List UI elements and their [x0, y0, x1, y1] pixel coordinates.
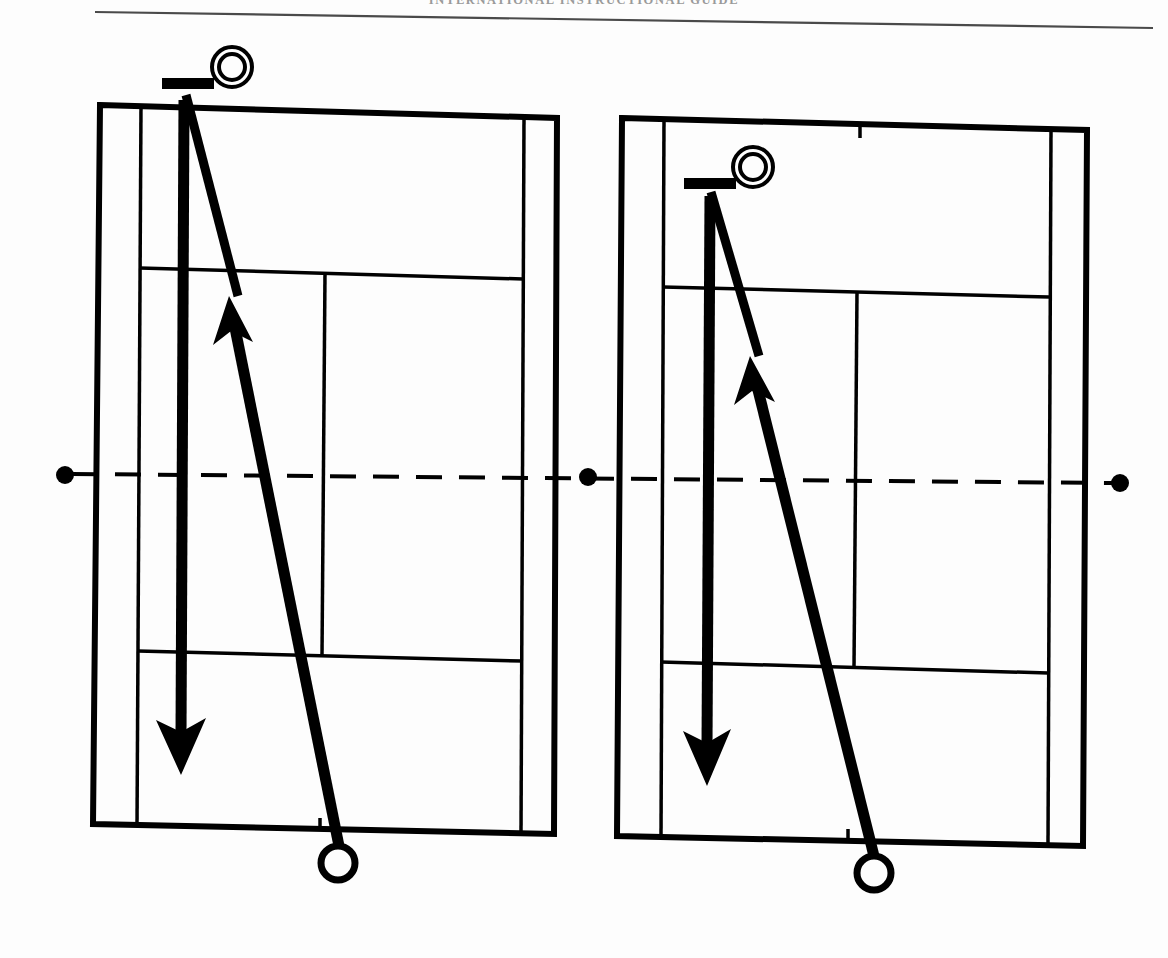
net-line-group	[56, 466, 1129, 492]
left-court-served-ball-path	[186, 95, 238, 296]
header-rule-group	[95, 12, 1153, 28]
left-court-far-service-line	[140, 268, 523, 279]
left-court-ball-marker-icon	[321, 846, 355, 880]
right-court-singles-sideline-right	[1048, 130, 1051, 845]
left-court-movement-arrow	[156, 100, 206, 775]
header-rule	[95, 12, 1153, 28]
left-court-player-marker	[162, 47, 252, 89]
left-court-center-service-line	[322, 273, 325, 656]
right-court-center-service-line	[854, 292, 857, 668]
left-court-singles-sideline-left	[137, 106, 141, 826]
right-court-served-ball-path	[711, 192, 759, 356]
left-court-near-service-line	[138, 651, 522, 661]
player-head-inner-icon	[740, 154, 766, 180]
player-head-inner-icon	[219, 54, 245, 80]
net-dot-center	[579, 468, 597, 486]
right-court-ball-marker-icon	[857, 856, 891, 890]
left-court-panel	[93, 47, 557, 880]
figure-page: INTERNATIONAL INSTRUCTIONAL GUIDE	[0, 0, 1168, 958]
net-dot-right	[1111, 474, 1129, 492]
left-court-singles-sideline-right	[521, 117, 524, 833]
left-court-movement-arrow-shaft	[181, 100, 184, 735]
left-court-shot-arrow	[213, 296, 339, 846]
right-court-singles-sideline-left	[661, 119, 664, 838]
player-racket-bar-icon	[162, 78, 214, 89]
player-racket-bar-icon	[684, 178, 736, 189]
left-court-served-ball-line	[186, 95, 238, 296]
right-court-panel	[617, 118, 1087, 890]
tennis-court-diagram	[0, 0, 1168, 958]
right-court-movement-arrow-shaft	[707, 196, 710, 745]
right-court-player-marker	[684, 147, 773, 189]
net-dot-left	[56, 466, 74, 484]
right-court-served-ball-line	[711, 192, 759, 356]
right-court-movement-arrow	[683, 196, 731, 786]
